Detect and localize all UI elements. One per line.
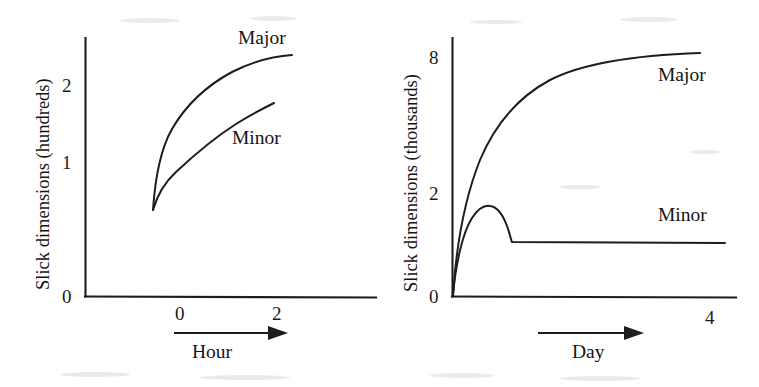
figure-container: Slick dimensions (hundreds) 0 1 2 0 2 Ho… bbox=[0, 0, 759, 387]
right-x-axis-line bbox=[452, 297, 736, 298]
left-x-axis-title: Hour bbox=[192, 342, 232, 362]
right-y-tick-8: 8 bbox=[429, 48, 439, 67]
left-x-tick-0: 0 bbox=[175, 304, 185, 323]
scan-artifact bbox=[60, 372, 130, 377]
scan-artifact bbox=[620, 17, 678, 22]
scan-artifact bbox=[470, 20, 522, 24]
left-x-axis-line bbox=[85, 297, 376, 298]
left-y-tick-2: 2 bbox=[62, 76, 72, 95]
right-xaxis-arrow-head bbox=[624, 326, 644, 340]
right-series-label-major: Major bbox=[658, 65, 706, 85]
scan-artifact bbox=[200, 375, 290, 380]
left-y-axis-title: Slick dimensions (hundreds) bbox=[34, 78, 53, 290]
left-y-tick-0: 0 bbox=[62, 287, 72, 306]
chart-panel-right: Slick dimensions (thousands) 0 2 8 4 Day… bbox=[380, 0, 759, 387]
left-x-tick-2: 2 bbox=[272, 304, 282, 323]
scan-artifact bbox=[560, 376, 640, 381]
scan-artifact bbox=[690, 150, 720, 154]
left-panel-plot bbox=[0, 0, 380, 387]
scan-artifact bbox=[430, 373, 494, 378]
right-series-label-minor: Minor bbox=[658, 205, 707, 225]
left-series-minor-curve bbox=[153, 103, 274, 210]
right-x-axis-title: Day bbox=[572, 342, 605, 362]
scan-artifact bbox=[120, 18, 180, 23]
left-y-tick-1: 1 bbox=[62, 153, 72, 172]
chart-panel-left: Slick dimensions (hundreds) 0 1 2 0 2 Ho… bbox=[0, 0, 380, 387]
left-xaxis-arrow-head bbox=[268, 326, 288, 340]
scan-artifact bbox=[560, 185, 600, 189]
right-series-major-curve bbox=[453, 53, 700, 295]
right-y-tick-2: 2 bbox=[429, 184, 439, 203]
left-series-label-minor: Minor bbox=[232, 128, 281, 148]
scan-artifact bbox=[250, 16, 296, 21]
left-series-label-major: Major bbox=[238, 28, 286, 48]
right-y-axis-title: Slick dimensions (thousands) bbox=[402, 74, 421, 292]
right-x-tick-4: 4 bbox=[705, 308, 715, 327]
right-y-tick-0: 0 bbox=[429, 287, 439, 306]
